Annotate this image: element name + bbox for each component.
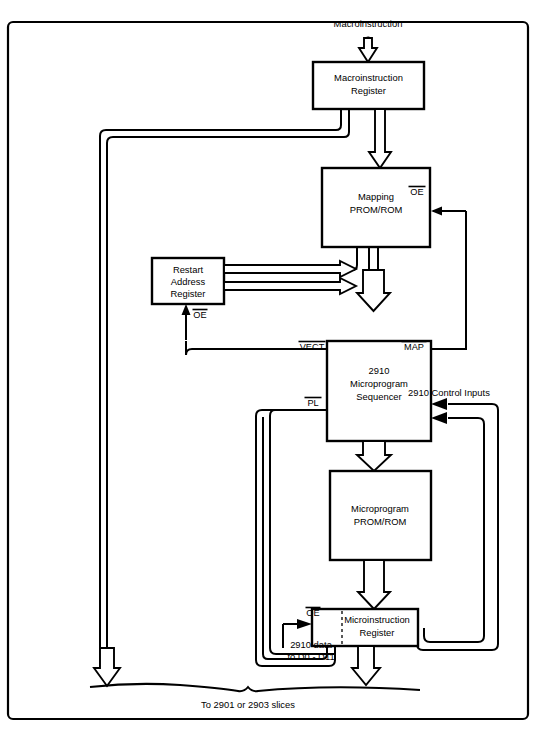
vect-label: VECT <box>300 342 325 352</box>
macroreg-left-feedback-rails <box>100 109 349 676</box>
mapping-to-sequencer-arrow <box>357 270 390 311</box>
mapping-oe-label: OE <box>410 187 423 197</box>
sequencer-label-3: Sequencer <box>356 391 401 402</box>
microinstruction-output-arrow <box>352 646 380 685</box>
sequencer-label-1: 2910 <box>369 365 390 376</box>
restart-oe-input-arrow <box>182 304 191 340</box>
bottom-brace <box>90 684 420 691</box>
pl-label: PL <box>307 398 318 408</box>
sequencer-to-microprogram-arrow <box>357 441 391 471</box>
microinstruction-oe-input-arrow <box>297 619 312 629</box>
restart-register-output-arrow-upper <box>224 261 356 277</box>
diagram-outer-frame <box>8 22 528 719</box>
sequencer-label-2: Microprogram <box>350 378 408 389</box>
left-rail-output-arrow <box>94 648 120 686</box>
map-label: MAP <box>404 342 424 352</box>
restart-address-register-label-3: Register <box>171 288 206 299</box>
control-input-arrow-upper <box>431 398 492 410</box>
microinstruction-register-label-1: Microinstruction <box>344 614 410 625</box>
control-route-inner <box>424 418 484 642</box>
microprogram-prom-rom-label-2: PROM/ROM <box>354 516 407 527</box>
macroinstruction-register-label-2: Register <box>351 85 386 96</box>
restart-register-output-arrow-lower <box>224 278 356 294</box>
restart-oe-label: OE <box>193 310 206 320</box>
control-input-arrow-lower <box>431 412 478 424</box>
restart-address-register-label-2: Address <box>171 276 206 287</box>
block-diagram-canvas: Macroinstruction Macroinstruction Regist… <box>0 0 536 729</box>
mapping-prom-rom-label-2: PROM/ROM <box>350 204 403 215</box>
microinstruction-oe-label: OE <box>306 608 319 618</box>
macroinstruction-register-label-1: Macroinstruction <box>334 72 403 83</box>
mapping-prom-rom-label-1: Mapping <box>358 191 394 202</box>
microprogram-to-microinstruction-arrow <box>358 560 390 609</box>
microprogram-prom-rom-label-1: Microprogram <box>351 503 409 514</box>
control-inputs-label: 2910 Control Inputs <box>408 387 490 398</box>
macroinstruction-input-label: Macroinstruction <box>334 18 403 29</box>
macroinstruction-input-arrow <box>359 37 377 62</box>
restart-address-register-label-1: Restart <box>173 264 204 275</box>
macroreg-to-mapping-bus-arrow <box>369 109 391 168</box>
map-route <box>431 211 466 349</box>
microinstruction-register-label-2: Register <box>360 627 395 638</box>
bottom-brace-label: To 2901 or 2903 slices <box>201 699 295 710</box>
mapping-oe-input-arrow <box>431 207 466 216</box>
